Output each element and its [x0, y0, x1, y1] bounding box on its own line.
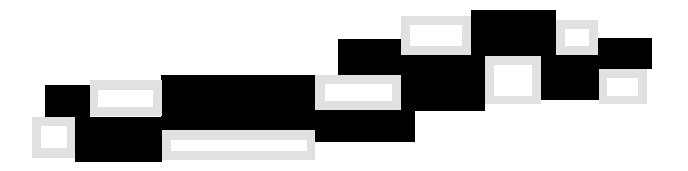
black-block	[471, 10, 556, 56]
gray-frame	[401, 16, 471, 55]
frame-inner	[41, 126, 67, 148]
gray-frame	[599, 69, 647, 104]
frame-inner	[494, 65, 532, 96]
black-block	[161, 75, 316, 130]
frame-inner	[325, 84, 392, 101]
frame-inner	[565, 29, 589, 46]
black-block	[598, 38, 652, 69]
black-block	[541, 55, 599, 100]
black-block	[338, 39, 402, 75]
abstract-block-graphic	[0, 0, 688, 171]
frame-inner	[171, 140, 307, 151]
frame-inner	[98, 90, 153, 107]
black-block	[45, 85, 90, 117]
black-block	[315, 110, 415, 142]
frame-inner	[607, 78, 638, 96]
black-block	[300, 75, 316, 130]
gray-frame	[556, 20, 598, 55]
black-block	[75, 117, 162, 162]
gray-frame	[90, 80, 162, 116]
gray-frame	[315, 75, 401, 110]
frame-inner	[410, 25, 462, 46]
gray-frame	[162, 130, 315, 160]
gray-frame	[32, 117, 75, 158]
gray-frame	[485, 56, 541, 104]
black-block	[401, 55, 485, 111]
